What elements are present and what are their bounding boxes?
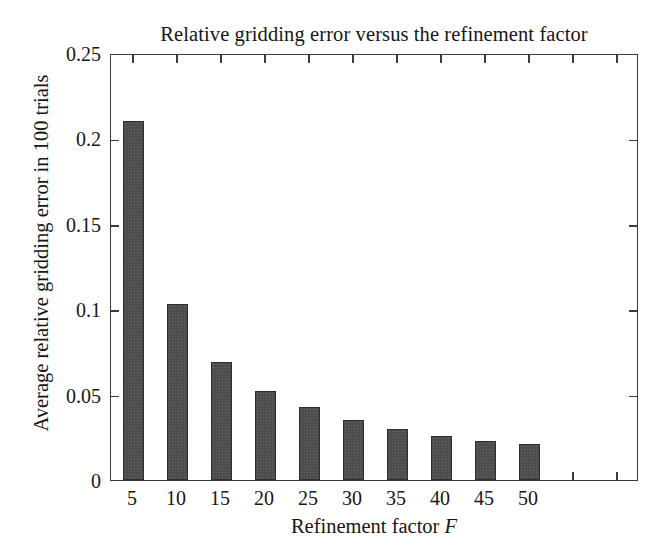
y-axis-tick-left bbox=[111, 310, 119, 312]
x-axis-tick-top bbox=[572, 55, 574, 63]
chart-figure: Relative gridding error versus the refin… bbox=[0, 0, 668, 551]
bar bbox=[211, 362, 232, 480]
bar bbox=[343, 420, 364, 480]
y-axis-tick-label: 0.25 bbox=[66, 44, 101, 64]
x-axis-tick-top bbox=[396, 55, 398, 63]
y-axis-tick-left bbox=[111, 396, 119, 398]
y-axis-tick-left bbox=[111, 140, 119, 142]
chart-title: Relative gridding error versus the refin… bbox=[110, 21, 638, 47]
y-axis-tick-left bbox=[111, 225, 119, 227]
x-axis-tick-bottom bbox=[572, 472, 574, 480]
x-axis-tick-top bbox=[132, 55, 134, 63]
x-axis-tick-top bbox=[308, 55, 310, 63]
x-axis-tick-labels: 5101520253035404550 bbox=[110, 487, 638, 513]
x-axis-tick-top bbox=[440, 55, 442, 63]
x-axis-title-symbol: F bbox=[445, 515, 458, 537]
x-axis-tick-top bbox=[528, 55, 530, 63]
x-axis-tick-top bbox=[220, 55, 222, 63]
x-axis-tick-bottom bbox=[616, 472, 618, 480]
x-axis-title: Refinement factor F bbox=[110, 513, 638, 539]
bar bbox=[167, 304, 188, 480]
bar bbox=[299, 407, 320, 480]
x-axis-title-text: Refinement factor bbox=[291, 515, 440, 537]
y-axis-tick-labels: 00.050.10.150.20.25 bbox=[36, 54, 101, 481]
y-axis-tick-right bbox=[629, 310, 637, 312]
x-axis-tick-label: 50 bbox=[498, 487, 558, 509]
plot-inner bbox=[111, 55, 637, 480]
y-axis-tick-label: 0.15 bbox=[66, 215, 101, 235]
bar bbox=[123, 121, 144, 480]
y-axis-tick-label: 0.2 bbox=[76, 129, 101, 149]
y-axis-tick-right bbox=[629, 140, 637, 142]
y-axis-tick-right bbox=[629, 396, 637, 398]
x-axis-tick-top bbox=[616, 55, 618, 63]
x-axis-tick-top bbox=[264, 55, 266, 63]
y-axis-tick-right bbox=[629, 225, 637, 227]
x-axis-tick-top bbox=[352, 55, 354, 63]
y-axis-title-container: Average relative gridding error in 100 t… bbox=[0, 0, 40, 540]
plot-area bbox=[110, 54, 638, 481]
bar bbox=[475, 441, 496, 480]
y-axis-tick-label: 0 bbox=[91, 471, 101, 491]
bar bbox=[255, 391, 276, 480]
x-axis-tick-top bbox=[484, 55, 486, 63]
x-axis-tick-top bbox=[176, 55, 178, 63]
bar bbox=[431, 436, 452, 480]
bar bbox=[387, 429, 408, 480]
y-axis-tick-label: 0.05 bbox=[66, 386, 101, 406]
bar bbox=[519, 444, 540, 480]
y-axis-tick-label: 0.1 bbox=[76, 300, 101, 320]
